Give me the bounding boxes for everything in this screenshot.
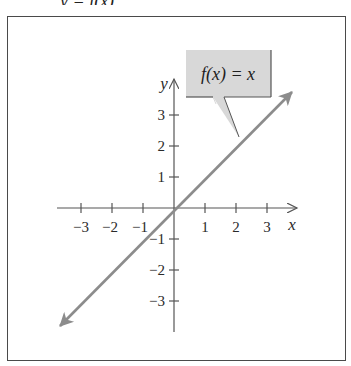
- y-tick-label: −2: [149, 262, 165, 278]
- function-label: f(x) = x: [201, 64, 255, 85]
- y-tick-label: 1: [158, 169, 166, 185]
- x-tick-label: −3: [73, 219, 89, 235]
- y-tick-label: −3: [149, 293, 165, 309]
- y-tick-label: 2: [158, 138, 166, 154]
- y-axis-label: y: [158, 74, 168, 93]
- x-tick-label: 1: [201, 219, 209, 235]
- function-line: [60, 92, 292, 326]
- y-tick-label: 3: [158, 107, 166, 123]
- y-axis: 3 2 1 −1 −2 −3 y: [149, 74, 179, 332]
- x-axis-label: x: [287, 215, 296, 234]
- x-tick-label: −1: [132, 219, 148, 235]
- x-tick-label: 2: [232, 219, 240, 235]
- x-tick-label: 3: [263, 219, 271, 235]
- x-tick-label: −2: [102, 219, 118, 235]
- function-callout: f(x) = x: [186, 50, 271, 137]
- chart-plot: −3 −2 −1 1 2 3 x 3 2 1 −1 −2 −3 y: [0, 0, 351, 366]
